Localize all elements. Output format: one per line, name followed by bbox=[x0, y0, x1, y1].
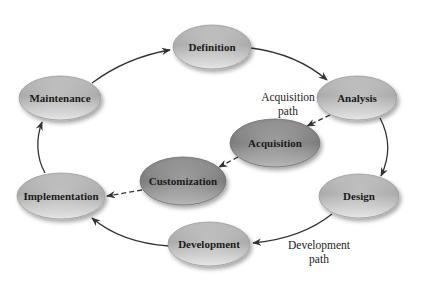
node-label-implementation: Implementation bbox=[23, 190, 98, 202]
node-label-customization: Customization bbox=[149, 175, 217, 187]
edge-implementation-maintenance bbox=[38, 122, 45, 173]
development-path-label: Development path bbox=[288, 239, 351, 266]
sdlc-cycle-diagram: Definition Analysis Design Development I… bbox=[0, 0, 427, 288]
edge-definition-analysis bbox=[251, 48, 327, 80]
edge-acquisition-customization bbox=[219, 157, 238, 167]
acquisition-path-label: Acquisition path bbox=[261, 91, 315, 118]
edge-analysis-acquisition bbox=[307, 115, 330, 126]
node-label-maintenance: Maintenance bbox=[29, 92, 90, 104]
development-path-label-line1: Development bbox=[288, 239, 351, 252]
edge-analysis-design bbox=[380, 118, 388, 176]
node-label-development: Development bbox=[178, 238, 240, 250]
node-label-design: Design bbox=[343, 190, 375, 202]
acquisition-path-label-line2: path bbox=[278, 105, 298, 118]
node-label-definition: Definition bbox=[188, 41, 235, 53]
edge-customization-implementation bbox=[107, 190, 142, 196]
edge-development-implementation bbox=[92, 218, 169, 246]
acquisition-path-label-line1: Acquisition bbox=[261, 91, 315, 104]
development-path-label-line2: path bbox=[309, 253, 329, 266]
node-label-analysis: Analysis bbox=[337, 92, 377, 104]
edge-maintenance-definition bbox=[92, 50, 170, 83]
cycle-edges bbox=[38, 48, 388, 246]
node-label-acquisition: Acquisition bbox=[248, 137, 302, 149]
